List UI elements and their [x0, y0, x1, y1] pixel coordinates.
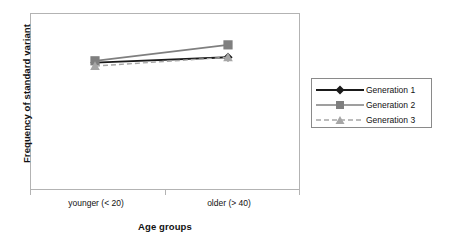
legend: Generation 1 Generation 2 Generation 3: [311, 78, 432, 128]
legend-label-generation-1: Generation 1: [366, 85, 415, 95]
x-axis-tick-label-younger: younger (< 20): [46, 198, 146, 208]
line-chart-figure: Frequency of standard variant younger (<…: [0, 0, 449, 243]
x-axis-tick-right: [299, 190, 300, 195]
legend-key-generation-2: [315, 98, 365, 112]
legend-key-generation-1: [315, 83, 365, 97]
x-axis-label: Age groups: [30, 221, 300, 232]
legend-entry-generation-2[interactable]: Generation 2: [312, 97, 431, 112]
legend-label-generation-3: Generation 3: [366, 115, 415, 125]
legend-key-generation-3: [315, 113, 365, 127]
y-axis-label: Frequency of standard variant: [21, 4, 32, 184]
legend-entry-generation-3[interactable]: Generation 3: [312, 112, 431, 127]
x-axis-tick-label-older: older (> 40): [181, 198, 277, 208]
legend-label-generation-2: Generation 2: [366, 100, 415, 110]
plot-area: [30, 13, 300, 190]
legend-entry-generation-1[interactable]: Generation 1: [312, 82, 431, 97]
x-axis-tick-mid: [165, 190, 166, 195]
x-axis-tick-left: [30, 190, 31, 195]
